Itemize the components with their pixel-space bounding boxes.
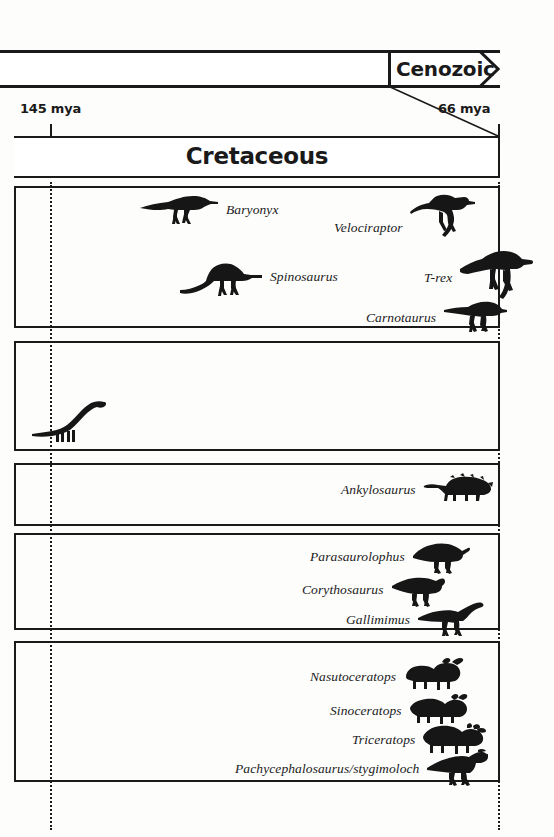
taxon-carnotaurus: Carnotaurus — [366, 302, 508, 334]
cenozoic-label: Cenozoic — [396, 57, 492, 81]
taxon-label-ankylosaurus: Ankylosaurus — [341, 482, 416, 498]
trex-silhouette-icon — [458, 255, 534, 301]
taxon-nasutoceratops: Nasutoceratops — [310, 659, 464, 695]
taxon-parasaurolophus: Parasaurolophus — [310, 540, 471, 574]
velociraptor-silhouette-icon — [409, 207, 479, 249]
taxon-label-nasutoceratops: Nasutoceratops — [310, 669, 396, 685]
carnotaurus-silhouette-icon — [442, 302, 508, 334]
spinosaurus-silhouette-icon — [178, 255, 264, 299]
taxon-trex: T-rex — [424, 255, 534, 301]
taxon-label-carnotaurus: Carnotaurus — [366, 310, 436, 326]
taxon-label-trex: T-rex — [424, 270, 452, 286]
scale-label-start: 145 mya — [20, 101, 81, 116]
taxon-sauropod — [30, 398, 108, 446]
taxon-label-parasaurolophus: Parasaurolophus — [310, 549, 405, 565]
taxon-baryonyx: Baryonyx — [138, 193, 279, 227]
period-label: Cretaceous — [14, 143, 500, 169]
taxon-label-velociraptor: Velociraptor — [334, 220, 403, 236]
taxon-label-sinoceratops: Sinoceratops — [330, 703, 402, 719]
taxon-pachycephalosaurus: Pachycephalosaurus/stygimoloch — [235, 751, 489, 786]
taxon-label-triceratops: Triceratops — [352, 732, 415, 748]
nasutoceratops-silhouette-icon — [402, 659, 464, 695]
ankylosaurus-silhouette-icon — [422, 473, 494, 507]
sauropod-silhouette-icon — [30, 398, 108, 446]
taxon-gallimimus: Gallimimus — [346, 602, 486, 637]
taxon-label-spinosaurus: Spinosaurus — [270, 269, 338, 285]
taxon-velociraptor: Velociraptor — [334, 207, 479, 249]
taxon-label-baryonyx: Baryonyx — [226, 202, 279, 218]
taxon-label-pachycephalosaurus: Pachycephalosaurus/stygimoloch — [235, 761, 419, 777]
taxon-spinosaurus: Spinosaurus — [178, 255, 338, 299]
taxon-label-gallimimus: Gallimimus — [346, 612, 410, 628]
gallimimus-silhouette-icon — [416, 602, 486, 637]
taxon-ankylosaurus: Ankylosaurus — [341, 473, 494, 507]
scale-label-end: 66 mya — [438, 101, 490, 116]
pachycephalosaurus-silhouette-icon — [425, 751, 489, 786]
baryonyx-silhouette-icon — [138, 193, 220, 227]
parasaurolophus-silhouette-icon — [411, 540, 471, 574]
timeline-page: Cenozoic 145 mya 66 mya Cretaceous Baryo… — [0, 0, 554, 837]
taxon-label-corythosaurus: Corythosaurus — [302, 582, 384, 598]
